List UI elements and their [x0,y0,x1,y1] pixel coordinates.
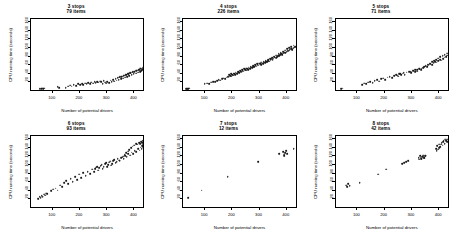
x-axis-tick [106,91,107,93]
data-point [349,185,351,187]
plot-area: 20406080100120140160100200300400 [335,135,449,208]
panel-title: 5 stops71 items [305,4,457,15]
data-point [75,85,77,87]
y-axis-title-label: CPU running time (seconds) [312,145,317,199]
data-point [99,167,101,169]
y-axis-tick-label: 120 [329,34,334,41]
plot-area: 20406080100120140160100200300400 [182,135,296,208]
data-point [103,166,105,168]
x-axis-tick-label: 400 [435,95,442,100]
data-point [438,147,440,149]
y-axis-title: CPU running time (seconds) [158,18,166,91]
panel-title: 7 stops12 items [152,121,304,132]
data-point [431,64,433,66]
data-point [127,151,129,153]
data-point [372,82,374,84]
data-point [65,180,67,182]
x-axis-tick-label: 400 [130,212,137,217]
data-point [283,155,285,157]
data-point [141,148,143,150]
data-point [342,88,344,90]
y-axis-tick-label: 20 [176,77,181,82]
data-point [57,189,59,191]
data-point [188,88,190,90]
panel-title-items: 93 items [0,126,152,131]
y-axis-tick-label: 120 [24,151,29,158]
x-axis-tick-label: 400 [130,95,137,100]
plot-frame [30,18,144,91]
data-point [420,69,422,71]
plot-frame [335,18,449,91]
data-point [403,72,405,74]
data-point [123,158,125,160]
data-point [293,148,295,150]
x-axis-tick [79,91,80,93]
data-point [426,66,428,68]
data-point [116,161,118,163]
y-axis-tick-label: 160 [329,17,334,24]
data-point [50,190,52,192]
x-axis-tick [79,208,80,210]
data-point [63,182,65,184]
data-point [125,152,127,154]
data-point [142,140,144,142]
y-axis-tick-label: 40 [176,69,181,74]
data-point [70,178,72,180]
plot-area: 20406080100120140160100200300400 [182,18,296,91]
y-axis-tick-label: 100 [24,160,29,167]
x-axis-tick [384,208,385,210]
data-point [80,177,82,179]
x-axis-title: Number of potential drivers [335,225,449,230]
x-axis-tick [286,208,287,210]
x-axis-tick [204,91,205,93]
y-axis-tick-label: 80 [176,169,181,174]
x-axis-tick [438,91,439,93]
scatter-panel-2: 4 stops226 itemsCPU running time (second… [152,0,304,117]
panel-title-items: 226 items [152,9,304,14]
y-axis-tick-label: 160 [176,17,181,24]
y-axis-tick-label: 160 [24,134,29,141]
data-point [107,164,109,166]
y-axis-tick-label: 60 [329,60,334,65]
y-axis-tick-label: 80 [176,52,181,57]
y-axis-tick-label: 20 [24,77,29,82]
y-axis-tick-label: 140 [176,26,181,33]
x-axis-tick-label: 300 [407,95,414,100]
data-point [124,154,126,156]
x-axis-tick [133,91,134,93]
data-point [404,74,406,76]
data-point [423,157,425,159]
data-point [110,164,112,166]
x-axis-tick-label: 100 [353,95,360,100]
y-axis-tick-label: 20 [24,194,29,199]
data-point [444,143,446,145]
data-point [129,149,131,151]
y-axis-tick-label: 100 [176,43,181,50]
data-point [378,80,380,82]
data-point [441,60,443,62]
y-axis-tick-label: 160 [24,17,29,24]
data-point [187,197,189,199]
x-axis-title: Number of potential drivers [30,225,144,230]
data-point [408,160,410,162]
y-axis-tick-label: 100 [176,160,181,167]
y-axis-title: CPU running time (seconds) [311,18,319,91]
data-point [118,159,120,161]
data-point [61,186,63,188]
x-axis-tick-label: 400 [435,212,442,217]
x-axis-tick-label: 200 [76,95,83,100]
y-axis-title: CPU running time (seconds) [6,18,14,91]
data-point [142,146,144,148]
data-point [93,171,95,173]
data-point [436,150,438,152]
y-axis-title-label: CPU running time (seconds) [160,145,165,199]
x-axis-title: Number of potential drivers [182,108,296,113]
data-point [201,189,203,191]
y-axis-tick [180,81,182,82]
y-axis-tick-label: 20 [329,77,334,82]
y-axis-tick [180,198,182,199]
panel-title-items: 12 items [152,126,304,131]
x-axis-tick-label: 300 [255,212,262,217]
y-axis-tick-label: 40 [176,186,181,191]
scatter-panel-4: 6 stops93 itemsCPU running time (seconds… [0,117,152,234]
